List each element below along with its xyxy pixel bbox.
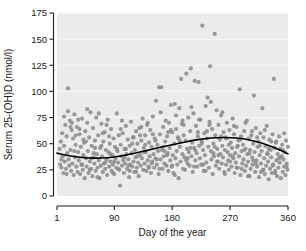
data-point xyxy=(151,132,155,136)
data-point xyxy=(201,148,205,152)
data-point xyxy=(121,131,125,135)
data-point xyxy=(72,173,76,177)
data-point xyxy=(240,167,244,171)
data-point xyxy=(155,143,159,147)
data-point xyxy=(126,164,130,168)
data-point xyxy=(193,158,197,162)
data-point xyxy=(211,151,215,155)
data-point xyxy=(81,168,85,172)
data-point xyxy=(74,165,78,169)
data-point xyxy=(240,161,244,165)
data-point xyxy=(84,140,88,144)
data-point xyxy=(177,176,181,180)
data-point xyxy=(124,124,128,128)
data-point xyxy=(194,124,198,128)
y-axis-tick-label: 75 xyxy=(36,112,47,123)
data-point xyxy=(173,156,177,160)
y-axis-tick-label: 150 xyxy=(31,34,47,45)
data-point xyxy=(127,175,131,179)
data-point xyxy=(59,166,63,170)
data-point xyxy=(112,159,116,163)
x-axis-tick-label: 180 xyxy=(164,212,180,223)
data-point xyxy=(216,123,220,127)
data-point xyxy=(76,118,80,122)
data-point xyxy=(186,115,190,119)
chart-figure: 0255075100125150175Serum 25-(OH)D (nmol/… xyxy=(0,0,306,251)
data-point xyxy=(76,150,80,154)
data-point xyxy=(120,119,124,123)
data-point xyxy=(139,138,143,142)
data-point xyxy=(88,168,92,172)
data-point xyxy=(187,150,191,154)
data-point xyxy=(269,155,273,159)
data-point xyxy=(193,79,197,83)
data-point xyxy=(131,159,135,163)
data-point xyxy=(68,125,72,129)
data-point xyxy=(168,158,172,162)
data-point xyxy=(182,133,186,137)
data-point xyxy=(189,105,193,109)
data-point xyxy=(249,167,253,171)
data-point xyxy=(169,128,173,132)
data-point xyxy=(106,118,110,122)
data-point xyxy=(273,171,277,175)
data-point xyxy=(238,87,242,91)
data-point xyxy=(151,152,155,156)
data-point xyxy=(214,164,218,168)
data-point xyxy=(184,158,188,162)
data-point xyxy=(103,160,107,164)
data-point xyxy=(124,147,128,151)
data-point xyxy=(243,121,247,125)
data-point xyxy=(162,149,166,153)
y-axis-tick-label: 100 xyxy=(31,86,47,97)
data-point xyxy=(174,127,178,131)
data-point xyxy=(153,138,157,142)
data-point xyxy=(260,149,264,153)
data-point xyxy=(77,127,81,131)
data-point xyxy=(99,122,103,126)
x-axis-title: Day of the year xyxy=(139,227,207,238)
data-point xyxy=(60,131,64,135)
data-point xyxy=(274,140,278,144)
data-point xyxy=(156,149,160,153)
data-point xyxy=(227,143,231,147)
data-point xyxy=(69,169,73,173)
data-point xyxy=(134,129,138,133)
y-axis-tick-label: 0 xyxy=(42,190,47,201)
data-point xyxy=(138,133,142,137)
data-point xyxy=(147,166,151,170)
data-point xyxy=(129,120,133,124)
data-point xyxy=(72,112,76,116)
data-point xyxy=(205,129,209,133)
data-point xyxy=(119,127,123,131)
data-point xyxy=(59,140,63,144)
data-point xyxy=(203,153,207,157)
data-point xyxy=(139,164,143,168)
data-point xyxy=(159,157,163,161)
data-point xyxy=(182,123,186,127)
data-point xyxy=(80,163,84,167)
data-point xyxy=(111,171,115,175)
data-point xyxy=(224,163,228,167)
data-point xyxy=(177,136,181,140)
data-point xyxy=(142,161,146,165)
data-point xyxy=(220,144,224,148)
data-point xyxy=(126,137,130,141)
data-point xyxy=(254,161,258,165)
data-point xyxy=(135,142,139,146)
data-point xyxy=(237,154,241,158)
data-point xyxy=(211,172,215,176)
data-point xyxy=(140,156,144,160)
data-point xyxy=(198,156,202,160)
y-axis-tick-label: 125 xyxy=(31,60,47,71)
data-point xyxy=(269,140,273,144)
data-point xyxy=(105,173,109,177)
data-point xyxy=(57,147,61,151)
data-point xyxy=(139,125,143,129)
data-point xyxy=(131,135,135,139)
data-point xyxy=(66,157,70,161)
data-point xyxy=(85,107,89,111)
data-point xyxy=(94,115,98,119)
data-point xyxy=(264,164,268,168)
data-point xyxy=(149,161,153,165)
